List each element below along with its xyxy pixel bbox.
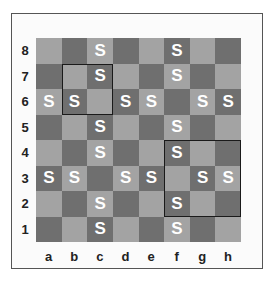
rank-label-3: 3 [18, 171, 32, 186]
piece-d3: S [120, 168, 131, 188]
square-g7 [190, 64, 216, 90]
rank-label-8: 8 [18, 43, 32, 58]
piece-c1: S [94, 219, 105, 239]
piece-f8: S [171, 41, 182, 61]
square-c6 [87, 89, 113, 115]
square-f8: S [164, 38, 190, 64]
square-e5 [139, 115, 165, 141]
square-a8 [36, 38, 62, 64]
square-f2: S [164, 191, 190, 217]
square-b8 [62, 38, 88, 64]
square-c5: S [87, 115, 113, 141]
square-g4 [190, 140, 216, 166]
square-h3: S [215, 166, 241, 192]
square-b5 [62, 115, 88, 141]
square-e3: S [139, 166, 165, 192]
file-label-d: d [113, 249, 138, 264]
piece-f7: S [171, 66, 182, 86]
rank-label-6: 6 [18, 94, 32, 109]
square-c8: S [87, 38, 113, 64]
square-h6: S [215, 89, 241, 115]
file-label-c: c [87, 249, 112, 264]
square-f3 [164, 166, 190, 192]
square-a1 [36, 217, 62, 243]
piece-b3: S [69, 168, 80, 188]
piece-c8: S [94, 41, 105, 61]
square-f6 [164, 89, 190, 115]
square-a3: S [36, 166, 62, 192]
square-d7 [113, 64, 139, 90]
square-c2: S [87, 191, 113, 217]
square-c1: S [87, 217, 113, 243]
rank-label-5: 5 [18, 120, 32, 135]
piece-a3: S [43, 168, 54, 188]
piece-h3: S [223, 168, 234, 188]
file-label-f: f [164, 249, 189, 264]
square-h4 [215, 140, 241, 166]
chess-board: SSSSSSSSSSSSSSSSSSSSSSSS [36, 38, 241, 242]
square-h1 [215, 217, 241, 243]
square-a5 [36, 115, 62, 141]
file-label-g: g [190, 249, 215, 264]
square-e4 [139, 140, 165, 166]
square-b3: S [62, 166, 88, 192]
square-b7 [62, 64, 88, 90]
file-label-b: b [62, 249, 87, 264]
piece-g3: S [197, 168, 208, 188]
piece-a6: S [43, 92, 54, 112]
square-c4: S [87, 140, 113, 166]
square-b1 [62, 217, 88, 243]
rank-label-4: 4 [18, 145, 32, 160]
square-b6: S [62, 89, 88, 115]
square-g5 [190, 115, 216, 141]
square-b2 [62, 191, 88, 217]
square-g2 [190, 191, 216, 217]
square-d3: S [113, 166, 139, 192]
square-g3: S [190, 166, 216, 192]
square-f1: S [164, 217, 190, 243]
square-e7 [139, 64, 165, 90]
piece-g6: S [197, 92, 208, 112]
square-g1 [190, 217, 216, 243]
square-d6: S [113, 89, 139, 115]
square-f5: S [164, 115, 190, 141]
file-label-e: e [139, 249, 164, 264]
piece-c4: S [94, 143, 105, 163]
square-a4 [36, 140, 62, 166]
square-h5 [215, 115, 241, 141]
square-f7: S [164, 64, 190, 90]
piece-f5: S [171, 117, 182, 137]
square-e8 [139, 38, 165, 64]
square-a7 [36, 64, 62, 90]
piece-e3: S [146, 168, 157, 188]
square-f4: S [164, 140, 190, 166]
piece-f4: S [171, 143, 182, 163]
file-label-h: h [215, 249, 240, 264]
piece-f1: S [171, 219, 182, 239]
square-c7: S [87, 64, 113, 90]
square-h2 [215, 191, 241, 217]
square-g6: S [190, 89, 216, 115]
piece-c7: S [94, 66, 105, 86]
piece-d6: S [120, 92, 131, 112]
square-b4 [62, 140, 88, 166]
piece-c2: S [94, 194, 105, 214]
piece-f2: S [171, 194, 182, 214]
piece-b6: S [69, 92, 80, 112]
square-c3 [87, 166, 113, 192]
piece-c5: S [94, 117, 105, 137]
square-e6: S [139, 89, 165, 115]
piece-h6: S [223, 92, 234, 112]
square-a2 [36, 191, 62, 217]
square-e2 [139, 191, 165, 217]
square-a6: S [36, 89, 62, 115]
square-g8 [190, 38, 216, 64]
square-d4 [113, 140, 139, 166]
square-d2 [113, 191, 139, 217]
file-label-a: a [36, 249, 61, 264]
rank-label-1: 1 [18, 222, 32, 237]
square-e1 [139, 217, 165, 243]
square-h8 [215, 38, 241, 64]
square-d5 [113, 115, 139, 141]
rank-label-7: 7 [18, 69, 32, 84]
